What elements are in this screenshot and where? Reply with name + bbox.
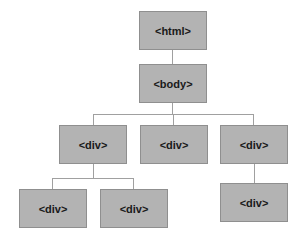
node-div-2: <div> (140, 125, 208, 164)
node-div-1b: <div> (100, 189, 168, 228)
node-div-1: <div> (59, 125, 127, 164)
connector-to-div3 (253, 114, 254, 125)
connector-to-div1b (133, 178, 134, 189)
node-div-3a: <div> (220, 183, 288, 222)
connector-to-div1 (93, 114, 94, 125)
node-html: <html> (139, 11, 207, 50)
node-label: <div> (39, 203, 68, 215)
connector-to-div1a (52, 178, 53, 189)
dom-tree-diagram: <html> <body> <div> <div> <div> <div> <d… (0, 0, 304, 241)
connector-div3-div3a (254, 164, 255, 183)
connector-div1-trunk (93, 164, 94, 178)
node-label: <div> (240, 197, 269, 209)
connector-body-trunk (172, 103, 173, 114)
node-label: <html> (155, 25, 191, 37)
node-label: <body> (153, 78, 192, 90)
connector-div1-horizontal (52, 178, 134, 179)
node-label: <div> (240, 139, 269, 151)
connector-to-div2 (173, 114, 174, 125)
node-body: <body> (139, 64, 207, 103)
node-div-1a: <div> (19, 189, 87, 228)
connector-html-body (172, 50, 173, 64)
node-label: <div> (160, 139, 189, 151)
node-label: <div> (79, 139, 108, 151)
node-label: <div> (120, 203, 149, 215)
node-div-3: <div> (220, 125, 288, 164)
